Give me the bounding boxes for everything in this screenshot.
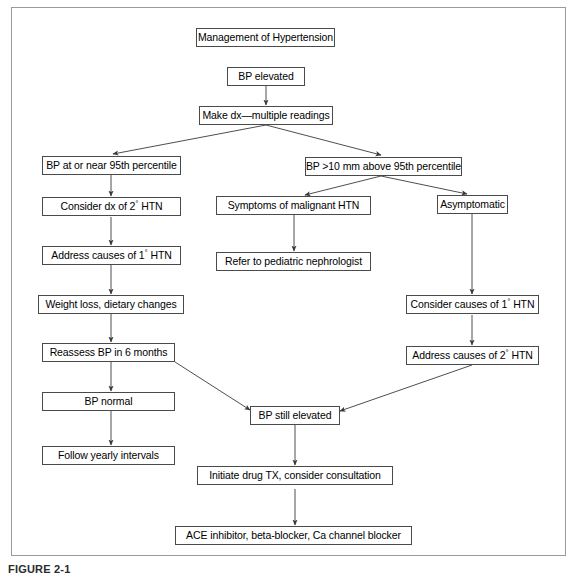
node-follow-yearly-intervals-label: Follow yearly intervals <box>56 450 161 461</box>
node-follow-yearly-intervals: Follow yearly intervals <box>42 446 175 465</box>
node-bp-elevated: BP elevated <box>227 67 305 86</box>
node-weight-loss-dietary-changes: Weight loss, dietary changes <box>38 295 184 314</box>
figure-caption: FIGURE 2-1 <box>8 563 71 575</box>
node-reassess-bp-in-6-months: Reassess BP in 6 months <box>42 343 175 362</box>
node-address-causes-of-secondary-htn-label: Address causes of 2° HTN <box>410 350 534 361</box>
node-bp-above-95th-percentile: BP >10 mm above 95th percentile <box>305 157 462 176</box>
node-ace-inhibitor-beta-blocker: ACE inhibitor, beta-blocker, Ca channel … <box>175 526 412 545</box>
node-refer-to-pediatric-nephrologist-label: Refer to pediatric nephrologist <box>223 256 364 267</box>
node-initiate-drug-tx: Initiate drug TX, consider consultation <box>197 466 393 485</box>
node-bp-still-elevated-label: BP still elevated <box>257 410 334 421</box>
node-bp-normal-label: BP normal <box>83 396 135 407</box>
node-ace-inhibitor-beta-blocker-label: ACE inhibitor, beta-blocker, Ca channel … <box>184 530 403 541</box>
node-consider-dx-of-secondary-htn: Consider dx of 2° HTN <box>42 197 181 216</box>
node-bp-above-95th-percentile-label: BP >10 mm above 95th percentile <box>304 161 463 172</box>
node-weight-loss-dietary-changes-label: Weight loss, dietary changes <box>43 299 178 310</box>
node-refer-to-pediatric-nephrologist: Refer to pediatric nephrologist <box>216 252 371 271</box>
node-initiate-drug-tx-label: Initiate drug TX, consider consultation <box>207 470 383 481</box>
node-address-causes-of-secondary-htn: Address causes of 2° HTN <box>406 346 539 365</box>
node-consider-causes-of-primary-htn-label: Consider causes of 1° HTN <box>409 299 537 310</box>
node-symptoms-of-malignant-htn-label: Symptoms of malignant HTN <box>226 200 362 211</box>
node-make-dx: Make dx—multiple readings <box>199 106 333 125</box>
node-title: Management of Hypertension <box>196 28 335 47</box>
node-consider-causes-of-primary-htn: Consider causes of 1° HTN <box>406 295 539 314</box>
node-address-causes-of-primary-htn-label: Address causes of 1° HTN <box>49 250 173 261</box>
hypertension-flowchart-figure: Management of Hypertension BP elevated M… <box>0 0 575 575</box>
node-asymptomatic: Asymptomatic <box>437 195 508 214</box>
node-make-dx-label: Make dx—multiple readings <box>200 110 331 121</box>
node-consider-dx-of-secondary-htn-label: Consider dx of 2° HTN <box>58 201 164 212</box>
node-bp-elevated-label: BP elevated <box>236 71 295 82</box>
node-address-causes-of-primary-htn: Address causes of 1° HTN <box>42 246 181 265</box>
node-asymptomatic-label: Asymptomatic <box>438 199 507 210</box>
node-bp-at-near-95th-percentile: BP at or near 95th percentile <box>42 156 181 175</box>
node-bp-normal: BP normal <box>42 392 175 411</box>
node-bp-at-near-95th-percentile-label: BP at or near 95th percentile <box>44 160 179 171</box>
node-symptoms-of-malignant-htn: Symptoms of malignant HTN <box>216 196 371 215</box>
node-title-label: Management of Hypertension <box>196 32 335 43</box>
node-bp-still-elevated: BP still elevated <box>250 406 340 425</box>
node-reassess-bp-in-6-months-label: Reassess BP in 6 months <box>48 347 170 358</box>
